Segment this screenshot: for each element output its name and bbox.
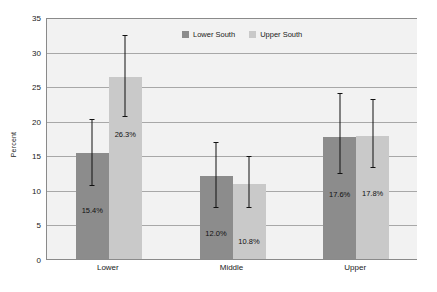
- chart-legend: Lower SouthUpper South: [182, 30, 302, 39]
- legend-swatch-icon: [182, 31, 189, 38]
- plot-area: 15.4%26.3%12.0%10.8%17.6%17.8%: [46, 18, 417, 260]
- error-bar-cap-lower: [123, 116, 128, 117]
- error-bar-cap-upper: [247, 156, 252, 157]
- y-axis-tick-label: 0: [37, 256, 41, 265]
- error-bar-cap-lower: [337, 173, 342, 174]
- error-bar-cap-upper: [370, 99, 375, 100]
- bar-data-label: 15.4%: [82, 206, 103, 215]
- bar-data-label: 17.6%: [329, 190, 350, 199]
- x-axis-tick-label: Upper: [344, 263, 366, 272]
- error-bar: [372, 99, 373, 167]
- y-axis-tick-label: 25: [32, 83, 41, 92]
- legend-item-upper-south[interactable]: Upper South: [249, 30, 302, 39]
- y-axis-tick-label: 10: [32, 186, 41, 195]
- bar-data-label: 10.8%: [238, 237, 259, 246]
- y-axis-tick-label: 35: [32, 14, 41, 23]
- y-axis-title-text: Percent: [11, 131, 18, 157]
- error-bar: [125, 35, 126, 116]
- bar-data-label: 26.3%: [115, 130, 136, 139]
- error-bar-cap-lower: [247, 207, 252, 208]
- error-bar-cap-lower: [90, 185, 95, 186]
- legend-item-lower-south[interactable]: Lower South: [182, 30, 235, 39]
- y-axis-tick-labels: 05101520253035: [20, 18, 44, 260]
- error-bar-cap-upper: [90, 119, 95, 120]
- y-axis-tick-label: 15: [32, 152, 41, 161]
- error-bar: [216, 142, 217, 206]
- y-axis-tick-label: 5: [37, 221, 41, 230]
- y-axis-tick-label: 20: [32, 117, 41, 126]
- legend-label: Upper South: [260, 30, 302, 39]
- error-bar-cap-upper: [123, 35, 128, 36]
- legend-label: Lower South: [193, 30, 235, 39]
- error-bar: [92, 119, 93, 185]
- x-axis-tick-label: Lower: [97, 263, 119, 272]
- x-axis-tick-labels: LowerMiddleUpper: [46, 263, 417, 279]
- error-bar-cap-lower: [214, 207, 219, 208]
- bars-layer: 15.4%26.3%12.0%10.8%17.6%17.8%: [47, 18, 417, 259]
- error-bar-cap-upper: [337, 93, 342, 94]
- x-axis-tick-label: Middle: [220, 263, 244, 272]
- error-bar-cap-lower: [370, 167, 375, 168]
- bar-data-label: 12.0%: [205, 229, 226, 238]
- legend-swatch-icon: [249, 31, 256, 38]
- error-bar: [249, 156, 250, 207]
- bar-data-label: 17.8%: [362, 189, 383, 198]
- error-bar-cap-upper: [214, 142, 219, 143]
- error-bar: [339, 93, 340, 173]
- y-axis-tick-label: 30: [32, 48, 41, 57]
- bar-chart-figure: Percent 05101520253035 15.4%26.3%12.0%10…: [0, 0, 437, 292]
